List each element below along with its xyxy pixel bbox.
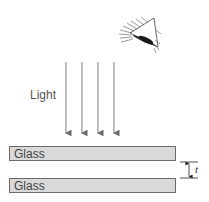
glass-plate-top: Glass xyxy=(9,146,176,161)
glass-plate-label: Glass xyxy=(14,147,45,162)
light-rays xyxy=(66,62,114,133)
light-label: Light xyxy=(30,88,56,102)
eye-icon xyxy=(119,17,161,53)
glass-plate-bottom: Glass xyxy=(9,178,176,193)
gap-thickness-label: t xyxy=(195,163,198,175)
glass-plate-label: Glass xyxy=(14,179,45,194)
